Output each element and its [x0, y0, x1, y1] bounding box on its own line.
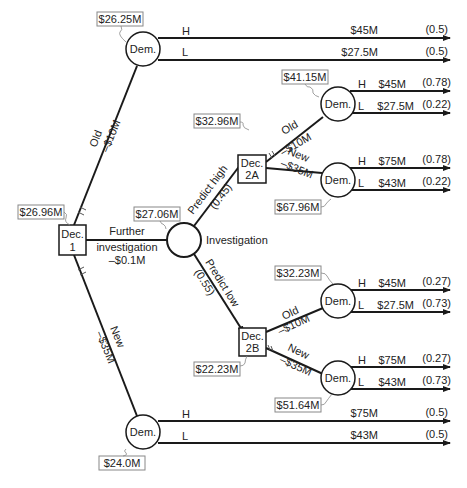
svg-text:(0.5): (0.5) — [425, 23, 448, 35]
value-box-dec1: $26.96M — [18, 205, 70, 225]
svg-text:$27.06M: $27.06M — [136, 208, 179, 220]
further-line2: investigation — [96, 241, 157, 253]
svg-text:(0.5): (0.5) — [425, 406, 448, 418]
chance-node-dem-2a-new: Dem. H L $75M $43M (0.78) (0.22) — [321, 153, 451, 197]
chance-node-dem-2a-old: Dem. H L $45M $27.5M (0.78) (0.22) — [321, 76, 451, 121]
value-box-dem-new: $24.0M — [99, 449, 145, 470]
value-box-dem-2a-old: $41.15M — [282, 70, 328, 97]
svg-text:(0.5): (0.5) — [425, 428, 448, 440]
svg-text:Investigation: Investigation — [206, 234, 268, 246]
svg-text:Dem.: Dem. — [130, 43, 156, 55]
svg-text:–$35M: –$35M — [278, 353, 314, 378]
svg-text:Dec.: Dec. — [241, 157, 264, 169]
svg-text:Dem.: Dem. — [325, 372, 351, 384]
svg-text:L: L — [358, 376, 364, 388]
branch-further-investigation: Further investigation –$0.1M — [86, 225, 167, 266]
svg-text:L: L — [358, 299, 364, 311]
svg-text:$45M: $45M — [378, 277, 406, 289]
value-box-dem-2b-new: $51.64M — [275, 394, 332, 412]
svg-text:Dec.: Dec. — [61, 228, 84, 240]
svg-text:1: 1 — [69, 241, 75, 253]
svg-text:$22.23M: $22.23M — [196, 363, 239, 375]
svg-text:(0.5): (0.5) — [425, 45, 448, 57]
svg-text:$27.5M: $27.5M — [377, 100, 414, 112]
branch-2b-old: Old –$10M — [266, 304, 323, 337]
svg-text:$43M: $43M — [350, 429, 378, 441]
svg-text:(0.73): (0.73) — [422, 297, 451, 309]
svg-text:$67.96M: $67.96M — [277, 201, 320, 213]
svg-text:H: H — [182, 25, 190, 37]
svg-text:(0.22): (0.22) — [422, 175, 451, 187]
svg-text:$45M: $45M — [350, 24, 378, 36]
svg-text:L: L — [358, 100, 364, 112]
chance-node-investigation: Investigation — [167, 223, 268, 257]
svg-text:–$35M: –$35M — [279, 157, 315, 181]
svg-text:$32.96M: $32.96M — [196, 115, 239, 127]
further-line3: –$0.1M — [109, 254, 146, 266]
svg-text:$24.0M: $24.0M — [104, 457, 141, 469]
branch-old: Old –$10M — [74, 66, 137, 225]
svg-text:$75M: $75M — [378, 354, 406, 366]
svg-text:L: L — [182, 430, 188, 442]
svg-text:H: H — [358, 155, 366, 167]
branch-2b-new: New –$35M — [266, 341, 323, 378]
svg-text:(0.27): (0.27) — [422, 275, 451, 287]
svg-text:H: H — [358, 354, 366, 366]
svg-text:2A: 2A — [245, 169, 259, 181]
svg-text:H: H — [182, 408, 190, 420]
decision-node-2b: Dec. 2B — [239, 328, 266, 356]
further-line1: Further — [109, 225, 145, 237]
value-box-dem-2a-new: $67.96M — [275, 199, 331, 214]
svg-text:$26.96M: $26.96M — [20, 206, 63, 218]
svg-text:H: H — [358, 78, 366, 90]
chance-node-dem-2b-old: Dem. H L $45M $27.5M (0.27) (0.73) — [321, 275, 451, 318]
svg-text:$43M: $43M — [378, 177, 406, 189]
decision-tree-diagram: Old –$10M New –$35M Further investigatio… — [0, 0, 467, 488]
svg-text:Dec.: Dec. — [241, 330, 264, 342]
svg-text:$75M: $75M — [378, 155, 406, 167]
svg-text:$75M: $75M — [350, 407, 378, 419]
svg-text:L: L — [182, 46, 188, 58]
figure-caption-clipped — [40, 481, 440, 488]
svg-text:$26.25M: $26.25M — [99, 13, 142, 25]
svg-text:$45M: $45M — [378, 78, 406, 90]
svg-text:$51.64M: $51.64M — [277, 399, 320, 411]
branch-new: New –$35M — [74, 255, 137, 416]
svg-text:L: L — [358, 177, 364, 189]
svg-text:(0.27): (0.27) — [422, 352, 451, 364]
branch-2a-new: New –$35M — [266, 145, 322, 181]
svg-text:Dem.: Dem. — [325, 98, 351, 110]
svg-text:Dem.: Dem. — [130, 426, 156, 438]
chance-node-dem-2b-new: Dem. H L $75M $43M (0.27) (0.73) — [321, 352, 451, 395]
value-box-dec2b: $22.23M — [194, 356, 247, 376]
svg-text:(0.73): (0.73) — [422, 374, 451, 386]
svg-text:H: H — [358, 277, 366, 289]
branch-predict-low: Predict low (0.55) — [192, 254, 244, 333]
svg-text:Dem.: Dem. — [325, 174, 351, 186]
svg-text:$27.5M: $27.5M — [377, 299, 414, 311]
svg-text:(0.78): (0.78) — [422, 76, 451, 88]
svg-text:$27.5M: $27.5M — [341, 46, 378, 58]
svg-text:$43M: $43M — [378, 376, 406, 388]
svg-text:$41.15M: $41.15M — [284, 71, 327, 83]
svg-text:(0.22): (0.22) — [422, 98, 451, 110]
svg-text:(0.78): (0.78) — [422, 153, 451, 165]
chance-node-dem-old: Dem. H L $45M $27.5M (0.5) (0.5) — [126, 23, 450, 66]
value-box-dem-2b-old: $32.23M — [275, 266, 333, 284]
svg-text:$32.23M: $32.23M — [277, 267, 320, 279]
decision-node-2a: Dec. 2A — [238, 155, 266, 183]
svg-text:Dem.: Dem. — [325, 295, 351, 307]
svg-text:2B: 2B — [246, 342, 259, 354]
decision-node-1: Dec. 1 — [59, 225, 86, 255]
value-box-dec2a: $32.96M — [194, 114, 249, 130]
branch-predict-high: Predict high (0.45) — [185, 160, 244, 226]
svg-text:Old: Old — [279, 118, 300, 137]
